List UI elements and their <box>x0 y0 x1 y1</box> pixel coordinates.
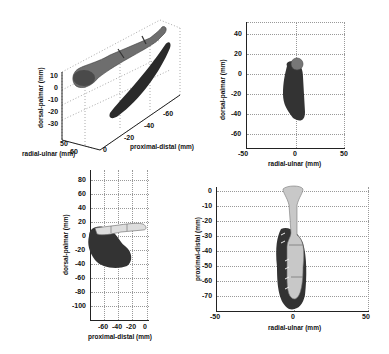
tr-ytick: 20 <box>234 50 242 57</box>
br-ytick: -70 <box>202 292 212 299</box>
bl-ytick: -40 <box>75 260 85 267</box>
tr-ylabel: dorsal-palmar (mm) <box>219 59 226 120</box>
3d-ylabel: radial-ulnar (mm) <box>22 150 75 157</box>
bl-xlabel: proximal-distal (mm) <box>88 333 152 340</box>
br-xlabel: radial-ulnar (mm) <box>268 324 321 331</box>
bl-xtick: -20 <box>126 323 136 330</box>
tr-ytick: -60 <box>231 130 241 137</box>
br-ytick: 0 <box>208 187 212 194</box>
bottom-left-plot-graphic <box>91 170 149 320</box>
bl-ytick: 80 <box>78 176 86 183</box>
3d-ytick: 50 <box>60 140 68 147</box>
br-ytick: -20 <box>202 217 212 224</box>
bottom-left-axes <box>90 170 149 321</box>
bl-ytick: -60 <box>75 274 85 281</box>
3d-xtick: 0 <box>103 146 107 153</box>
tr-ytick: 0 <box>238 70 242 77</box>
br-xtick: 0 <box>291 313 295 320</box>
tr-ytick: -40 <box>231 110 241 117</box>
tr-xtick: 50 <box>340 150 348 157</box>
3d-xtick: -20 <box>124 134 134 141</box>
3d-ztick: -20 <box>48 108 58 115</box>
tr-xtick: -50 <box>238 150 248 157</box>
bottom-right-axes <box>216 187 369 312</box>
bl-ytick: 40 <box>78 204 86 211</box>
br-ytick: -50 <box>202 262 212 269</box>
bl-ytick: -20 <box>75 246 85 253</box>
3d-ztick: -10 <box>48 96 58 103</box>
bl-ytick: -100 <box>72 302 86 309</box>
3d-xtick: -40 <box>144 122 154 129</box>
bl-ytick: -80 <box>75 288 85 295</box>
bl-ylabel: dorsal-palmar (mm) <box>62 214 69 275</box>
panel-top-right-view: 40 20 0 -20 -40 -60 dorsal-palmar (mm) -… <box>200 0 389 170</box>
panel-3d-view: dorsal-palmar (mm) 10 0 -10 -20 -30 0 -2… <box>0 0 200 165</box>
br-ytick: -40 <box>202 247 212 254</box>
br-ylabel: proximal-distal (mm) <box>194 217 201 281</box>
bl-xtick: 0 <box>143 323 147 330</box>
3d-zlabel: dorsal-palmar (mm) <box>37 67 44 128</box>
tr-xtick: 0 <box>293 150 297 157</box>
bl-ytick: 0 <box>82 232 86 239</box>
br-xtick: -50 <box>210 313 220 320</box>
3d-xtick: -60 <box>163 110 173 117</box>
panel-bottom-left-view: 80 60 40 20 0 -20 -40 -60 -80 -100 dorsa… <box>0 165 190 354</box>
bottom-right-plot-graphic <box>217 187 369 311</box>
3d-plot-graphic <box>0 0 200 165</box>
br-ytick: -10 <box>202 202 212 209</box>
br-xtick: 50 <box>362 313 370 320</box>
br-ytick: -60 <box>202 277 212 284</box>
panel-bottom-right-view: 0 -10 -20 -30 -40 -50 -60 -70 proximal-d… <box>190 165 389 354</box>
tr-ytick: 40 <box>234 30 242 37</box>
bl-xtick: -40 <box>112 323 122 330</box>
3d-xlabel: proximal-distal (mm) <box>130 143 194 150</box>
top-right-plot-graphic <box>247 22 345 148</box>
3d-ztick: 10 <box>50 72 58 79</box>
top-right-axes <box>246 22 345 149</box>
3d-ztick: -30 <box>48 120 58 127</box>
bl-ytick: 60 <box>78 190 86 197</box>
tr-ytick: -20 <box>231 90 241 97</box>
bl-xtick: -60 <box>98 323 108 330</box>
bl-ytick: 20 <box>78 218 86 225</box>
br-ytick: -30 <box>202 232 212 239</box>
3d-ztick: 0 <box>54 84 58 91</box>
